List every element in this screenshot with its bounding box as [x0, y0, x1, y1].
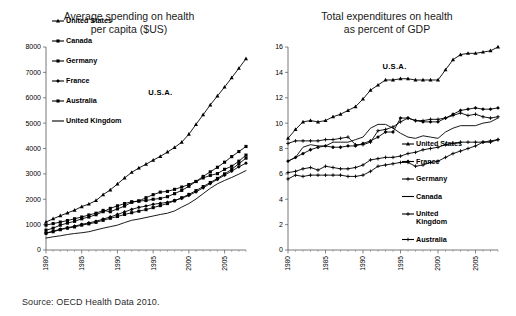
chart-panel-spending: Average spending on health per capita ($… — [0, 0, 258, 292]
chart-plot-right: 0246810121416198019851990199520002005U.S… — [258, 0, 516, 292]
svg-text:0: 0 — [37, 246, 41, 253]
svg-text:France: France — [416, 157, 440, 166]
svg-text:1985: 1985 — [322, 256, 329, 271]
svg-text:14: 14 — [275, 69, 283, 76]
svg-text:Australia: Australia — [66, 96, 98, 105]
svg-text:Australia: Australia — [416, 235, 448, 244]
svg-text:Canada: Canada — [416, 192, 443, 201]
svg-text:1980: 1980 — [42, 256, 49, 271]
svg-text:0: 0 — [279, 246, 283, 253]
legend-item-germany[interactable]: Germany — [402, 174, 447, 183]
svg-text:8000: 8000 — [25, 43, 41, 50]
legend-item-australia[interactable]: Australia — [52, 96, 98, 105]
svg-text:Germany: Germany — [66, 56, 97, 65]
legend-item-france[interactable]: France — [52, 76, 90, 85]
svg-text:United States: United States — [416, 139, 462, 148]
svg-text:2000: 2000 — [25, 196, 41, 203]
svg-text:1985: 1985 — [78, 256, 85, 271]
legend-item-canada[interactable]: Canada — [52, 36, 93, 45]
svg-text:4: 4 — [279, 196, 283, 203]
figure-container: Average spending on health per capita ($… — [0, 0, 516, 316]
svg-text:10: 10 — [275, 120, 283, 127]
annotation-usa: U.S.A. — [382, 62, 406, 71]
svg-text:Kingdom: Kingdom — [416, 217, 447, 226]
svg-text:2005: 2005 — [221, 256, 228, 271]
svg-text:8: 8 — [279, 145, 283, 152]
series-line-canada — [288, 118, 498, 161]
svg-text:1990: 1990 — [114, 256, 121, 271]
svg-text:Canada: Canada — [66, 36, 93, 45]
svg-text:Germany: Germany — [416, 174, 447, 183]
svg-text:France: France — [66, 76, 90, 85]
legend-item-united-kingdom[interactable]: UnitedKingdom — [402, 209, 447, 226]
svg-text:3000: 3000 — [25, 170, 41, 177]
svg-text:5000: 5000 — [25, 120, 41, 127]
svg-text:16: 16 — [275, 43, 283, 50]
svg-text:7000: 7000 — [25, 69, 41, 76]
source-note: Source: OECD Health Data 2010. — [22, 297, 160, 307]
svg-text:1990: 1990 — [359, 256, 366, 271]
svg-text:United States: United States — [66, 16, 112, 25]
chart-plot-left: 0100020003000400050006000700080001980198… — [0, 0, 258, 292]
svg-text:1995: 1995 — [397, 256, 404, 271]
svg-text:1995: 1995 — [150, 256, 157, 271]
legend-item-united-states[interactable]: United States — [52, 16, 112, 25]
svg-text:2005: 2005 — [472, 256, 479, 271]
svg-text:12: 12 — [275, 94, 283, 101]
chart-panel-gdp: Total expenditures on health as percent … — [258, 0, 516, 292]
svg-text:1980: 1980 — [284, 256, 291, 271]
legend-item-united-kingdom[interactable]: United Kingdom — [52, 116, 122, 125]
svg-text:4000: 4000 — [25, 145, 41, 152]
legend-item-canada[interactable]: Canada — [402, 192, 443, 201]
legend-item-france[interactable]: France — [402, 157, 440, 166]
annotation-usa: U.S.A. — [148, 88, 172, 97]
svg-text:2000: 2000 — [185, 256, 192, 271]
svg-text:1000: 1000 — [25, 221, 41, 228]
svg-text:2000: 2000 — [434, 256, 441, 271]
legend-item-australia[interactable]: Australia — [402, 235, 448, 244]
svg-text:2: 2 — [279, 221, 283, 228]
svg-text:6: 6 — [279, 170, 283, 177]
svg-text:6000: 6000 — [25, 94, 41, 101]
legend-item-germany[interactable]: Germany — [52, 56, 97, 65]
svg-text:United Kingdom: United Kingdom — [66, 116, 122, 125]
legend-item-united-states[interactable]: United States — [402, 139, 462, 148]
series-line-germany — [288, 113, 498, 145]
